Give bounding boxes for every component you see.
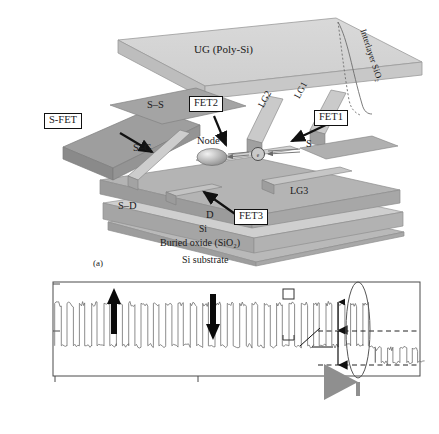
panel-a-schematic: e UG (Poly-Si) Interlaye [0, 0, 439, 268]
ne-bracket [283, 335, 294, 340]
callout-fet1[interactable]: FET1 [314, 110, 348, 126]
x-axis-ticks [55, 376, 341, 382]
label-side-source: S–S [147, 100, 164, 111]
label-lg3: LG3 [290, 186, 308, 196]
capture-error-ellipse [346, 282, 370, 378]
callout-s-fet[interactable]: S-FET [44, 113, 82, 129]
label-side-gate: S–G [133, 143, 152, 154]
plot-frame [53, 282, 420, 376]
callout-fet2[interactable]: FET2 [189, 96, 223, 112]
label-node: Node [197, 136, 220, 147]
label-drain: D [206, 210, 214, 221]
schematic-drawing: e [0, 0, 439, 268]
label-buried-oxide: Buried oxide (SiO₂) [160, 238, 240, 248]
figure-root: e UG (Poly-Si) Interlaye [0, 0, 439, 434]
y-axis-ticks [53, 284, 60, 331]
label-si-substrate: Si substrate [182, 255, 228, 265]
label-upper-gate: UG (Poly-Si) [194, 44, 253, 55]
callout-fet3[interactable]: FET3 [234, 209, 268, 225]
label-side-drain: S–D [118, 201, 137, 212]
label-source: S [306, 139, 312, 150]
label-si: Si [199, 225, 207, 235]
panel-a-tag: (a) [93, 258, 103, 268]
current-vs-time-plot [0, 268, 439, 434]
n-minus-one-marker [283, 289, 294, 299]
storage-node-island [197, 149, 227, 166]
panel-b-plot: 3.665 3.660 IS–FET (µA) 0 50 100 Time (s… [0, 268, 439, 434]
